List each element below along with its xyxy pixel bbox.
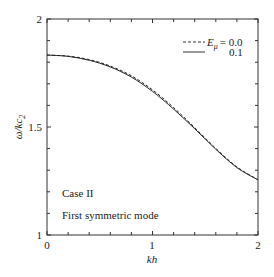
- y-axis-label: ω/kc2: [12, 115, 27, 140]
- y-axis-label-sub: 2: [18, 115, 27, 119]
- annotation-case: Case II: [62, 187, 94, 199]
- y-axis-label-main: ω/kc: [12, 119, 24, 140]
- svg-text:ω/kc2: ω/kc2: [12, 115, 27, 140]
- x-tick-2: 2: [255, 239, 261, 251]
- y-tick-1-5: 1.5: [28, 121, 42, 133]
- chart: 2 1.5 1 0 1 2 kh ω/kc2 Eμ= 0.0 0.1 Case …: [0, 0, 274, 277]
- legend-entry-2: 0.1: [229, 46, 243, 58]
- x-tick-1: 1: [149, 239, 155, 251]
- ticks: [47, 19, 258, 235]
- curve-e-mu-0-1: [47, 55, 258, 180]
- curves: [47, 55, 258, 180]
- plot-frame: [47, 19, 258, 235]
- legend-symbol-sub: μ: [213, 42, 218, 51]
- y-tick-1: 1: [37, 229, 43, 241]
- legend: Eμ= 0.0 0.1: [183, 36, 243, 58]
- x-axis-label: kh: [147, 253, 158, 265]
- annotation-mode: First symmetric mode: [62, 209, 159, 221]
- y-tick-2: 2: [37, 13, 43, 25]
- x-tick-0: 0: [44, 239, 50, 251]
- curve-e-mu-0-0: [47, 55, 258, 180]
